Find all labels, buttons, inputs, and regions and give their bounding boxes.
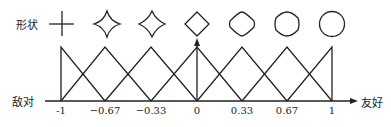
axis-right-label: 友好 [361,94,383,110]
rounder-shape-icon [275,12,299,36]
diamond-shape-icon [185,12,209,36]
tick-label: -1 [56,105,66,116]
axis-arrowhead-icon [350,98,358,104]
shape-row-label: 形状 [16,16,38,32]
tick-label: 0 [194,105,200,116]
tick-label: 0.67 [276,105,298,116]
axis-left-label: 敌对 [12,93,34,109]
circle-shape-icon [320,12,345,37]
tick-label: −0.67 [90,105,121,116]
cross-shape-icon [49,11,74,36]
tick-label: 1 [329,105,335,116]
center-arrowhead-icon [194,38,200,46]
tick-label: −0.33 [136,105,167,116]
concave-diamond-shape-icon [139,11,165,37]
rounded-diamond-shape-icon [230,12,255,36]
tick-label: 0.33 [231,105,253,116]
star-shape-icon [94,11,120,37]
